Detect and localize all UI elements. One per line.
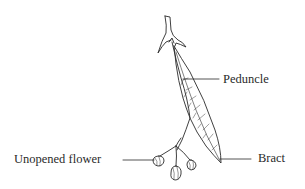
label-unopened-flower: Unopened flower	[14, 153, 101, 166]
cut-stem	[158, 16, 186, 53]
label-bract: Bract	[258, 152, 285, 165]
bract-leaf	[174, 46, 221, 163]
label-peduncle: Peduncle	[223, 73, 269, 86]
pedicels	[160, 138, 190, 166]
